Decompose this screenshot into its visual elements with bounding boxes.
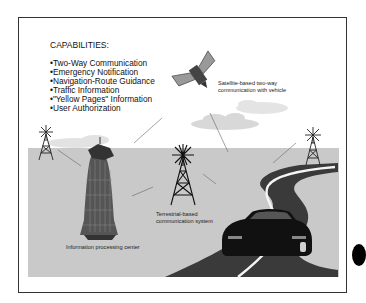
- cloud-center: [191, 113, 259, 130]
- satellite-label-line-2: communication with vehicle: [218, 87, 286, 94]
- terrestrial-label-line-2: communication system: [156, 218, 213, 225]
- satellite-label-line-1: Satellite-based two-way: [218, 80, 286, 87]
- capabilities-title: CAPABILITIES:: [50, 40, 109, 50]
- capability-item: User Authorization: [50, 104, 155, 113]
- page-edge-dot: [352, 244, 366, 266]
- terrestrial-label: Terrestrial-based communication system: [156, 211, 213, 225]
- capabilities-list: Two-Way Communication Emergency Notifica…: [50, 59, 155, 112]
- terrestrial-label-line-1: Terrestrial-based: [156, 211, 213, 218]
- cloud-right: [236, 100, 288, 114]
- satellite-label: Satellite-based two-way communication wi…: [218, 80, 286, 94]
- processing-center-label: Information processing center: [66, 244, 140, 251]
